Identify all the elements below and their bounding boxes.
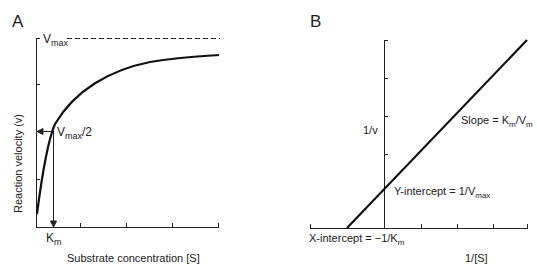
slope-label: Slope = Km/Vm [461,114,533,129]
half-vmax-label: Vmax/2 [57,125,92,141]
vmax-label: Vmax [43,32,69,48]
panel-a-ylabel: Reaction velocity (v) [12,114,24,213]
half-vmax-arrow [37,129,57,228]
panel-a-label: A [12,12,24,31]
x-intercept-label: X-intercept = −1/Km [309,232,405,247]
km-label: Km [46,231,62,247]
panel-b-axes [310,40,528,229]
panel-b-xlabel: 1/[S] [465,252,488,264]
figure: A Vmax Vmax/2 Km Substrate concentration… [0,0,537,277]
panel-a-xlabel: Substrate concentration [S] [67,252,200,264]
panel-b-label: B [310,12,321,31]
y-intercept-label: Y-intercept = 1/Vmax [394,185,490,200]
panel-b-ylabel: 1/v [363,124,378,136]
